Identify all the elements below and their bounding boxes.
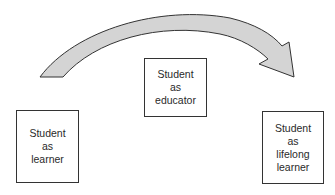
node-label-line: Student xyxy=(275,122,311,135)
node-student-as-educator: Student as educator xyxy=(144,58,207,117)
diagram-canvas: Student as learner Student as educator S… xyxy=(0,0,335,195)
node-student-as-lifelong-learner: Student as lifelong learner xyxy=(262,111,324,184)
node-label-line: Student xyxy=(157,68,193,81)
node-label-line: lifelong xyxy=(276,148,309,161)
node-label-line: learner xyxy=(31,153,64,166)
node-student-as-learner: Student as learner xyxy=(16,110,79,183)
node-label-line: learner xyxy=(277,161,310,174)
node-label-line: Student xyxy=(29,127,65,140)
node-label-line: as xyxy=(287,135,298,148)
node-label-line: as xyxy=(170,81,181,94)
node-label-line: educator xyxy=(155,94,196,107)
node-label-line: as xyxy=(42,140,53,153)
